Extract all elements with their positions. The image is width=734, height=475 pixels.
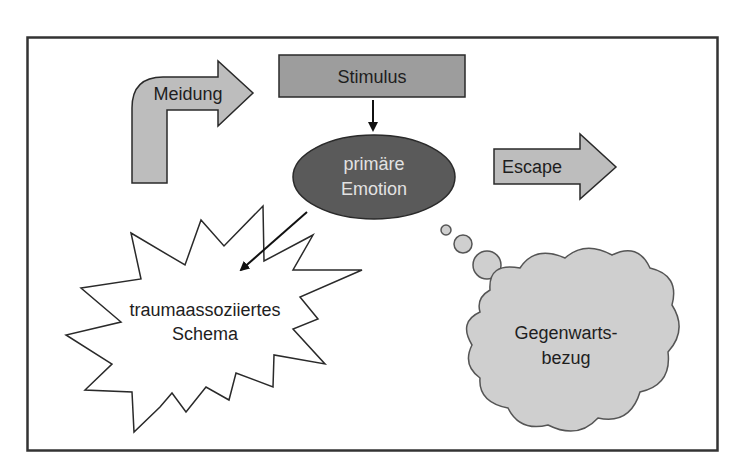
emotion-label-line1: primäre [343, 154, 404, 174]
emotion-node: primäre Emotion [293, 135, 455, 219]
schema-label-line2: Schema [172, 324, 239, 344]
emotion-label-line2: Emotion [341, 179, 407, 199]
gegenwart-label-line2: bezug [541, 348, 590, 368]
emotion-ellipse [293, 135, 455, 219]
stimulus-node: Stimulus [279, 55, 465, 97]
escape-label: Escape [502, 157, 562, 177]
stimulus-label: Stimulus [337, 67, 406, 87]
diagram-canvas: Meidung Stimulus primäre Emotion Escape … [0, 0, 734, 475]
thought-bubble-medium [454, 235, 472, 253]
meidung-label: Meidung [153, 84, 222, 104]
thought-bubble-small [441, 225, 451, 235]
schema-label-line1: traumaassoziiertes [129, 300, 280, 320]
gegenwart-label-line1: Gegenwarts- [514, 323, 617, 343]
